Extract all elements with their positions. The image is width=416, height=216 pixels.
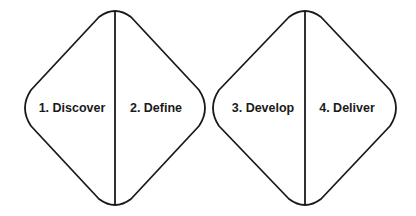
phase-label-develop: 3. Develop [232, 101, 295, 115]
phase-label-deliver: 4. Deliver [319, 101, 375, 115]
phase-label-discover: 1. Discover [39, 101, 106, 115]
phase-label-define: 2. Define [130, 101, 182, 115]
